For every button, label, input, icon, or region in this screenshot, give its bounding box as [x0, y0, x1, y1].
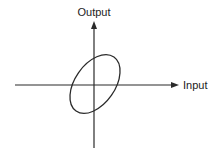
x-axis-label: Input [183, 79, 207, 91]
diagram-canvas: Output Input [0, 0, 216, 158]
x-axis-arrowhead-icon [171, 82, 179, 88]
y-axis-label: Output [77, 6, 110, 18]
hysteresis-loop [60, 45, 131, 122]
y-axis-arrowhead-icon [91, 21, 97, 29]
